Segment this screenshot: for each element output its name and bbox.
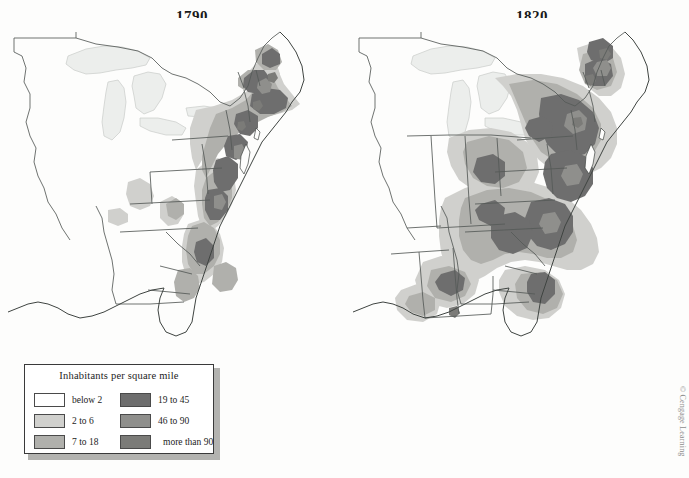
map-panel-1820: 1820 bbox=[345, 0, 689, 478]
legend-label-more-than-90: more than 90 bbox=[163, 437, 213, 447]
legend-label-19-to-45: 19 to 45 bbox=[158, 395, 189, 405]
legend-swatch-more-than-90 bbox=[120, 435, 151, 449]
legend-item-7-to-18: 7 to 18 bbox=[34, 431, 120, 452]
map-background bbox=[0, 18, 344, 358]
legend-1790: Inhabitants per square mile below 2 19 t… bbox=[24, 364, 216, 456]
legend-label-7-to-18: 7 to 18 bbox=[72, 437, 98, 447]
map-graphic-1820 bbox=[345, 18, 689, 358]
legend-title: Inhabitants per square mile bbox=[25, 370, 213, 381]
legend-item-19-to-45: 19 to 45 bbox=[120, 389, 206, 410]
legend-swatch-7-to-18 bbox=[34, 435, 65, 449]
credit-text: © Cengage Learning bbox=[678, 386, 687, 457]
legend-swatch-below-2 bbox=[34, 393, 65, 407]
legend-box: Inhabitants per square mile below 2 19 t… bbox=[24, 364, 214, 454]
legend-swatch-19-to-45 bbox=[120, 393, 151, 407]
legend-item-46-to-90: 46 to 90 bbox=[120, 410, 206, 431]
figure-root: 1790 bbox=[0, 0, 689, 478]
legend-label-46-to-90: 46 to 90 bbox=[158, 416, 189, 426]
map-panel-1790: 1790 bbox=[0, 0, 344, 478]
legend-label-2-to-6: 2 to 6 bbox=[72, 416, 94, 426]
legend-item-more-than-90: more than 90 bbox=[120, 431, 206, 452]
legend-swatch-2-to-6 bbox=[34, 414, 65, 428]
legend-grid: below 2 19 to 45 2 to 6 46 to 90 bbox=[34, 389, 206, 452]
legend-swatch-46-to-90 bbox=[120, 414, 151, 428]
map-graphic-1790 bbox=[0, 18, 344, 358]
legend-item-below-2: below 2 bbox=[34, 389, 120, 410]
legend-label-below-2: below 2 bbox=[72, 395, 102, 405]
credit-line: © Cengage Learning bbox=[674, 386, 688, 478]
legend-item-2-to-6: 2 to 6 bbox=[34, 410, 120, 431]
